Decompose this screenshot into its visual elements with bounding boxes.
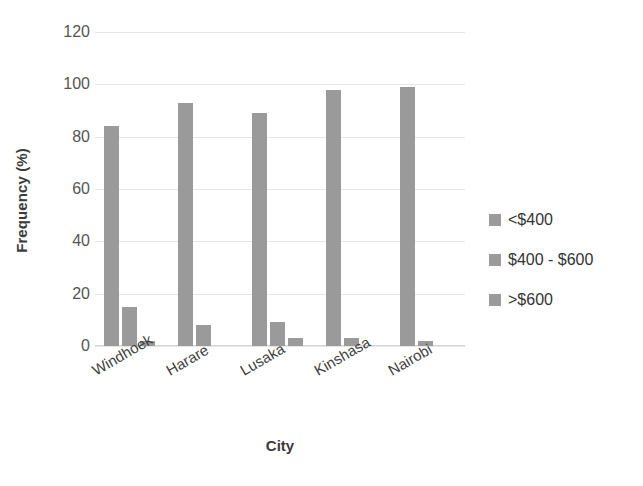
y-axis-tick-label: 120: [44, 24, 90, 40]
legend-label: <$400: [508, 211, 553, 229]
y-axis-tick-label: 60: [44, 181, 90, 197]
legend-label: $400 - $600: [508, 251, 593, 269]
legend-item[interactable]: >$600: [489, 280, 639, 320]
legend-swatch-icon: [489, 294, 501, 306]
legend-item[interactable]: $400 - $600: [489, 240, 639, 280]
y-axis-tick-label: 100: [44, 76, 90, 92]
chart-legend: <$400$400 - $600>$600: [489, 200, 639, 320]
y-axis-tick-labels: 120100806040200: [40, 0, 90, 486]
x-axis-tick-cell: Nairobi: [391, 350, 465, 420]
bar-group: [243, 32, 317, 346]
bar-chart: Frequency (%) 120100806040200 WindhoekHa…: [0, 0, 643, 486]
y-axis-tick-label: 0: [44, 338, 90, 354]
x-axis-tick-cell: Windhoek: [95, 350, 169, 420]
legend-label: >$600: [508, 291, 553, 309]
y-axis-tick-label: 40: [44, 233, 90, 249]
legend-swatch-icon: [489, 254, 501, 266]
bar: [326, 90, 341, 346]
bar-group: [95, 32, 169, 346]
legend-item[interactable]: <$400: [489, 200, 639, 240]
y-axis-tick-label: 80: [44, 129, 90, 145]
bar: [104, 126, 119, 346]
bar-groups: [95, 32, 465, 346]
bar: [288, 338, 303, 346]
x-axis-tick-cell: Kinshasa: [317, 350, 391, 420]
y-axis-tick-label: 20: [44, 286, 90, 302]
bar: [400, 87, 415, 346]
bar-group: [391, 32, 465, 346]
x-axis-title: City: [95, 437, 465, 454]
bar-group: [317, 32, 391, 346]
x-axis-tick-cell: Harare: [169, 350, 243, 420]
y-axis-title: Frequency (%): [13, 116, 30, 286]
plot-area: [95, 32, 465, 346]
bar-group: [169, 32, 243, 346]
bar: [252, 113, 267, 346]
bar: [178, 103, 193, 346]
x-axis-tick-labels: WindhoekHarareLusakaKinshasaNairobi: [95, 350, 465, 420]
legend-swatch-icon: [489, 214, 501, 226]
x-axis-tick-cell: Lusaka: [243, 350, 317, 420]
